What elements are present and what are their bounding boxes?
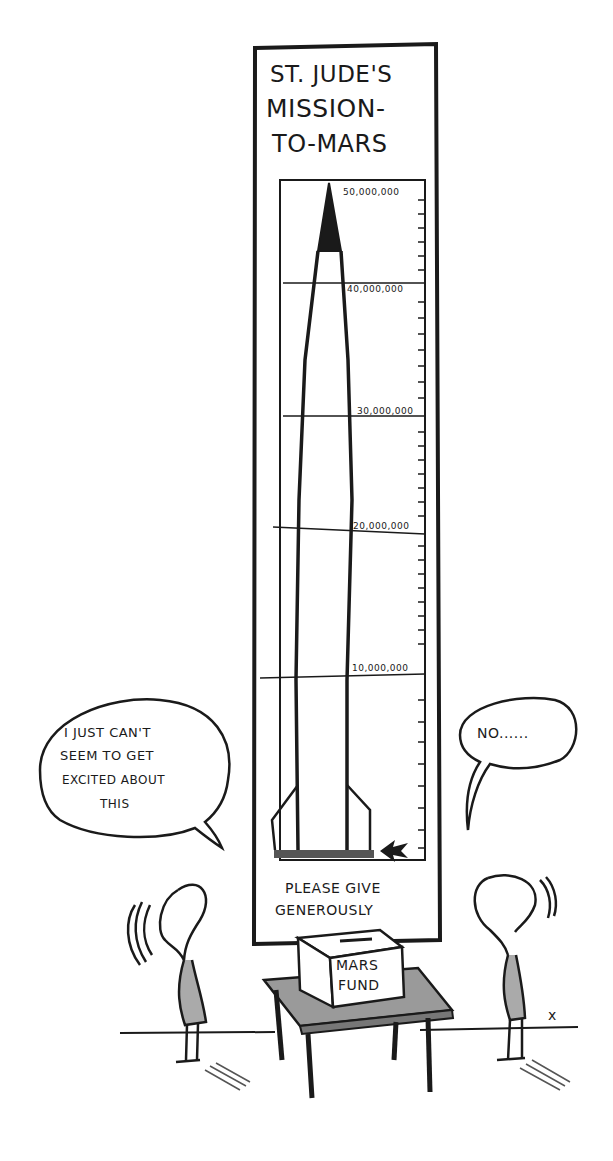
mars-fund-box: MARS FUND [298, 930, 404, 1007]
sign-title-line-2: MISSION- [266, 94, 385, 123]
tick-50m: 50,000,000 [343, 187, 400, 197]
sign-title-line-3: TO-MARS [271, 130, 387, 158]
box-label-line-1: MARS [336, 957, 378, 973]
sign-footer-line-1: PLEASE GIVE [285, 880, 381, 896]
left-speech-bubble: I JUST CAN'T SEEM TO GET EXCITED ABOUT T… [40, 699, 229, 848]
right-speech-text: NO...... [477, 725, 529, 741]
left-speech-line-2: SEEM TO GET [60, 748, 154, 763]
left-speech-line-3: EXCITED ABOUT [62, 773, 165, 787]
tick-10m: 10,000,000 [352, 663, 409, 673]
sign-title-line-1: ST. JUDE'S [270, 61, 392, 87]
mission-sign: ST. JUDE'S MISSION- TO-MARS 50,000,000 4… [254, 44, 440, 944]
current-progress-bar [274, 850, 374, 858]
tick-20m: 20,000,000 [353, 521, 410, 531]
tick-40m: 40,000,000 [347, 284, 404, 294]
cartoon-canvas: ST. JUDE'S MISSION- TO-MARS 50,000,000 4… [0, 0, 613, 1161]
tick-30m: 30,000,000 [357, 406, 414, 416]
left-figure [128, 885, 206, 1062]
sign-footer-line-2: GENEROUSLY [275, 902, 373, 918]
right-speech-bubble: NO...... [460, 698, 576, 830]
left-speech-line-4: THIS [99, 797, 130, 811]
left-speech-line-1: I JUST CAN'T [64, 725, 151, 740]
box-label-line-2: FUND [338, 977, 380, 993]
floor-shadows [205, 1060, 570, 1090]
right-figure [475, 875, 556, 1060]
artist-signature: x [548, 1007, 557, 1023]
